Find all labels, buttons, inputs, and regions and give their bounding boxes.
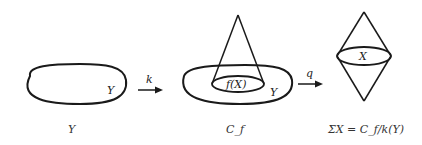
disc-fx-label: f(X) (225, 78, 247, 91)
blob-cf-y-label: Y (270, 86, 279, 99)
caption-sigma-x: ΣX = C_f/k(Y) (327, 123, 404, 136)
panel-cf: f(X) Y C_f (183, 15, 292, 136)
panel-y: Y Y (27, 64, 126, 136)
panel-sigma-x: X ΣX = C_f/k(Y) (327, 12, 404, 136)
arrowhead-icon (315, 81, 323, 88)
arrowhead-icon (155, 87, 163, 94)
mapping-cone-diagram: Y Y k f(X) Y C_f q X ΣX = C_f/k(Y) (0, 0, 422, 145)
cone-edge-left (212, 15, 238, 84)
cone-edge-right (238, 15, 264, 84)
equator-x-label: X (358, 50, 368, 63)
arrow-q-label: q (306, 67, 313, 80)
upper-cone-right (364, 12, 391, 56)
caption-cf: C_f (226, 123, 246, 136)
lower-cone-right (364, 56, 391, 101)
arrow-k-label: k (146, 73, 153, 86)
arrow-q: q (298, 67, 323, 88)
blob-y-label: Y (107, 84, 116, 97)
caption-y: Y (68, 123, 77, 136)
arrow-k: k (138, 73, 163, 94)
